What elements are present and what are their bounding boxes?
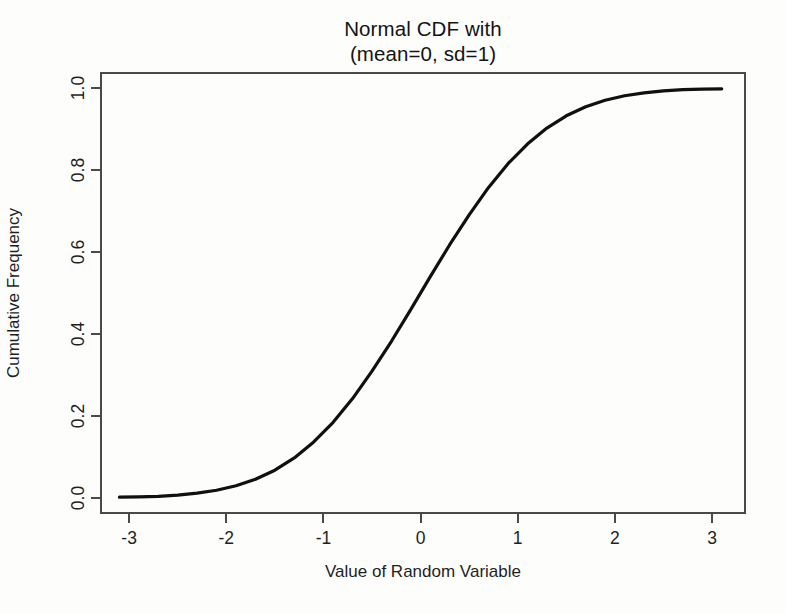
y-tick-label: 0.0: [68, 485, 89, 509]
y-axis-label: Cumulative Frequency: [4, 208, 24, 378]
y-tick-label: 0.8: [68, 158, 89, 182]
y-tick-mark: [91, 415, 100, 417]
y-tick-mark: [91, 87, 100, 89]
x-tick-label: -3: [121, 528, 137, 549]
y-tick-mark: [91, 333, 100, 335]
x-axis-label: Value of Random Variable: [100, 562, 746, 582]
y-tick-mark: [91, 251, 100, 253]
x-tick-mark: [128, 514, 130, 523]
x-tick-mark: [517, 514, 519, 523]
x-tick-mark: [711, 514, 713, 523]
x-tick-label: 1: [513, 528, 523, 549]
x-tick-mark: [420, 514, 422, 523]
chart-title-line-2: (mean=0, sd=1): [0, 41, 786, 66]
cdf-curve: [100, 72, 746, 514]
x-tick-label: -1: [316, 528, 332, 549]
x-tick-label: 0: [416, 528, 426, 549]
x-tick-mark: [614, 514, 616, 523]
x-tick-mark: [225, 514, 227, 523]
x-tick-label: 3: [707, 528, 717, 549]
y-tick-mark: [91, 169, 100, 171]
chart-figure: Normal CDF with (mean=0, sd=1) -3-2-1012…: [0, 0, 786, 614]
y-tick-label: 0.2: [68, 404, 89, 428]
chart-title: Normal CDF with (mean=0, sd=1): [0, 16, 786, 66]
plot-area: [100, 72, 746, 514]
x-tick-mark: [322, 514, 324, 523]
y-tick-label: 0.4: [68, 322, 89, 346]
y-tick-label: 0.6: [68, 240, 89, 264]
chart-title-line-1: Normal CDF with: [0, 16, 786, 41]
y-tick-mark: [91, 497, 100, 499]
x-tick-label: -2: [219, 528, 235, 549]
x-tick-label: 2: [610, 528, 620, 549]
y-tick-label: 1.0: [68, 76, 89, 100]
